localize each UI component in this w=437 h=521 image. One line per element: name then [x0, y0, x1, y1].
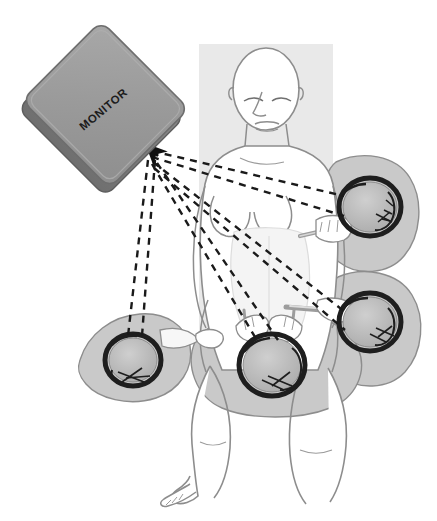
operating-room-diagram: MONITOR — [0, 0, 437, 521]
illustration-canvas: MONITOR — [0, 0, 437, 521]
head-surgeon-perineal — [239, 334, 305, 396]
head-surgeon-upper-right — [339, 178, 401, 236]
head-assistant-lower-right — [339, 293, 401, 351]
head-assistant-left — [105, 334, 161, 386]
